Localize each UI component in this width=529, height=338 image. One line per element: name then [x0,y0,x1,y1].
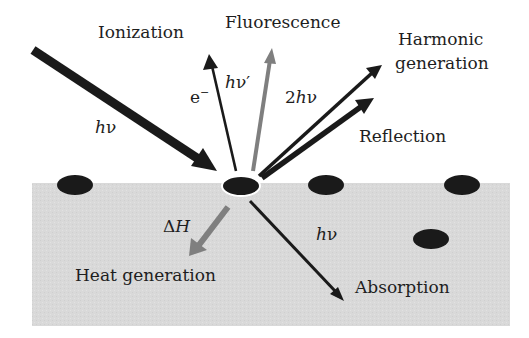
label-harmonic-line2: generation [395,53,489,73]
substrate [32,183,510,326]
label-heat-generation: Heat generation [75,265,216,285]
fluorescence-photon-arrow [253,48,276,171]
symbol-harmonic-2hnu: 2hν [285,87,317,107]
label-fluorescence: Fluorescence [225,12,340,32]
symbol-fluorescence-hnu-prime: hν′ [225,72,250,92]
symbol-delta-h: ΔH [163,216,191,236]
label-ionization: Ionization [98,22,184,42]
label-harmonic-line1: Harmonic [398,29,483,49]
label-absorption: Absorption [354,277,450,297]
incident-photon-arrow [33,50,217,171]
symbol-absorption-hnu: hν [316,224,337,244]
label-reflection: Reflection [359,126,446,146]
symbol-incident-hnu: hν [95,117,116,137]
reflected-photon-arrow [262,98,374,178]
symbol-electron: e− [190,86,209,107]
particle-4 [413,229,449,249]
harmonic-photon-arrow [259,65,382,176]
central-particle [222,176,260,196]
interaction-diagram: Ionization Fluorescence Harmonic generat… [0,0,529,338]
particle-1 [57,175,93,195]
particle-2 [308,175,344,195]
particle-3 [444,175,480,195]
